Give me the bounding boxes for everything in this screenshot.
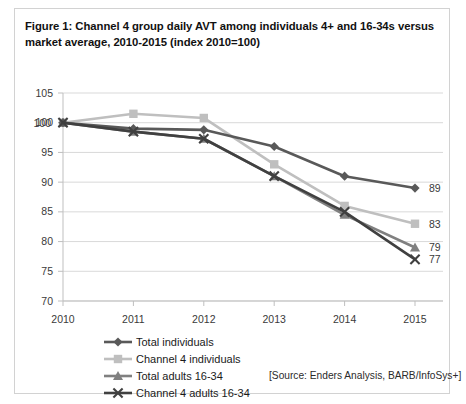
source-attribution: [Source: Enders Analysis, BARB/InfoSys+] bbox=[269, 370, 461, 381]
data-series-group bbox=[58, 110, 420, 264]
legend-label: Channel 4 individuals bbox=[133, 353, 241, 365]
legend-marker-diamond bbox=[103, 335, 133, 349]
x-tick-label: 2014 bbox=[333, 313, 357, 325]
legend-marker-square bbox=[103, 352, 133, 366]
figure-caption: Figure 1: Channel 4 group daily AVT amon… bbox=[25, 18, 439, 50]
y-tick-label: 90 bbox=[41, 176, 53, 188]
legend-item-total-individuals: Total individuals bbox=[103, 333, 333, 350]
legend-label: Total adults 16-34 bbox=[133, 370, 223, 382]
legend-label: Channel 4 adults 16-34 bbox=[133, 387, 250, 399]
x-axis-tick-labels: 201020112012201320142015 bbox=[51, 313, 427, 325]
x-tick-label: 2010 bbox=[51, 313, 75, 325]
chart-legend: Total individuals Channel 4 individuals … bbox=[103, 333, 333, 401]
legend-label: Total individuals bbox=[133, 336, 214, 348]
legend-marker-x bbox=[103, 386, 133, 400]
data-point-marker-diamond bbox=[113, 337, 122, 346]
data-point-marker-diamond bbox=[270, 142, 279, 151]
point-value-label: 79 bbox=[429, 241, 441, 253]
data-point-marker-square bbox=[200, 114, 208, 122]
point-value-label: 100 bbox=[33, 117, 51, 129]
data-point-marker-diamond bbox=[199, 125, 208, 134]
y-tick-label: 70 bbox=[41, 295, 53, 307]
axes-group bbox=[58, 93, 443, 306]
data-point-marker-square bbox=[114, 354, 122, 362]
y-tick-label: 85 bbox=[41, 205, 53, 217]
x-tick-label: 2013 bbox=[263, 313, 287, 325]
y-tick-label: 75 bbox=[41, 265, 53, 277]
gridlines-group bbox=[63, 93, 443, 301]
point-value-label: 89 bbox=[429, 182, 441, 194]
y-tick-label: 95 bbox=[41, 146, 53, 158]
data-point-marker-diamond bbox=[340, 172, 349, 181]
y-tick-label: 105 bbox=[35, 87, 53, 99]
point-value-label: 83 bbox=[429, 218, 441, 230]
x-tick-label: 2011 bbox=[122, 313, 145, 325]
x-tick-label: 2012 bbox=[192, 313, 216, 325]
data-point-marker-square bbox=[129, 110, 137, 118]
data-point-marker-square bbox=[270, 160, 278, 168]
legend-item-channel4-adults: Channel 4 adults 16-34 bbox=[103, 384, 333, 401]
figure-container: Figure 1: Channel 4 group daily AVT amon… bbox=[14, 8, 450, 394]
y-tick-label: 80 bbox=[41, 235, 53, 247]
data-point-marker-square bbox=[411, 220, 419, 228]
point-value-label: 77 bbox=[429, 253, 441, 265]
legend-marker-triangle bbox=[103, 369, 133, 383]
x-tick-label: 2015 bbox=[403, 313, 427, 325]
data-point-marker-diamond bbox=[410, 183, 419, 192]
data-point-marker-x bbox=[410, 255, 419, 264]
legend-item-channel4-individuals: Channel 4 individuals bbox=[103, 350, 333, 367]
